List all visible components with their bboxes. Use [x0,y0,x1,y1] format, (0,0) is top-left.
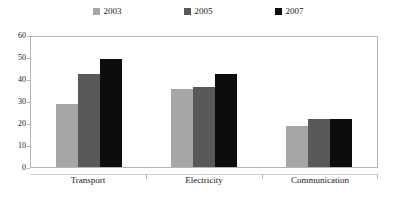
bar-electricity-2005 [193,87,215,167]
legend-item-2007: 2007 [275,7,304,16]
legend-label-2005: 2005 [195,7,213,16]
x-tick-transport: Transport [30,174,146,190]
y-tick-10: 10 [0,141,26,150]
y-tick-20: 20 [0,119,26,128]
legend-item-2003: 2003 [93,7,122,16]
chart-legend: 2003 2005 2007 [0,5,396,18]
y-tick-0: 0 [0,163,26,172]
bar-electricity-2003 [171,89,193,167]
legend-swatch-2005 [184,8,191,15]
bar-chart-figure: 2003 2005 2007 60 50 40 30 20 10 0 [0,0,396,198]
x-tick-electricity: Electricity [146,174,262,190]
bar-transport-2005 [78,74,100,167]
legend-swatch-2003 [93,8,100,15]
bar-group-communication [262,37,377,167]
bar-electricity-2007 [215,74,237,167]
y-tick-40: 40 [0,75,26,84]
legend-label-2007: 2007 [286,7,304,16]
legend-swatch-2007 [275,8,282,15]
legend-label-2003: 2003 [104,7,122,16]
y-tick-30: 30 [0,97,26,106]
x-tick-communication: Communication [262,174,378,190]
bar-group-electricity [146,37,261,167]
bar-transport-2003 [56,104,78,167]
x-divider-1 [146,174,147,179]
bar-communication-2007 [330,119,352,167]
chart-title [0,0,396,3]
y-tick-mark-0 [27,168,30,169]
y-axis: 60 50 40 30 20 10 0 [0,31,26,173]
bar-communication-2003 [286,126,308,167]
y-tick-60: 60 [0,31,26,40]
bar-transport-2007 [100,59,122,167]
y-tick-50: 50 [0,53,26,62]
bar-communication-2005 [308,119,330,167]
bars-layer [31,37,377,167]
legend-item-2005: 2005 [184,7,213,16]
x-divider-2 [262,174,263,179]
bar-group-transport [31,37,146,167]
x-divider-3 [377,174,378,179]
x-axis: Transport Electricity Communication [30,174,378,190]
